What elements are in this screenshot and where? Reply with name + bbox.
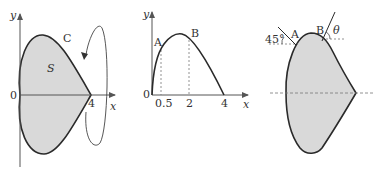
- rotation-arrowhead-icon: [81, 52, 88, 60]
- point-a-label: A: [290, 28, 300, 41]
- angle-45-label: 45°: [265, 33, 285, 46]
- angle-arc-b: [326, 32, 330, 39]
- origin-label: 0: [10, 89, 17, 102]
- curve-c-label: C: [63, 32, 71, 45]
- region-s-shape: [19, 35, 91, 154]
- x-axis-label: x: [243, 98, 250, 111]
- figure: y x 0 4 C S y x 0 0.5 2 4 A B 45° A B θ: [0, 0, 378, 170]
- angle-theta-label: θ: [333, 24, 340, 37]
- x-tick-4-label: 4: [88, 97, 95, 110]
- x-tick-2-label: 2: [186, 97, 193, 110]
- x-axis-label: x: [110, 100, 117, 113]
- x-tick-0.5-label: 0.5: [155, 97, 173, 110]
- rotation-arrow-icon: [86, 26, 107, 145]
- point-a-label: A: [153, 36, 163, 49]
- point-b-label: B: [316, 24, 324, 37]
- curve: [152, 34, 224, 95]
- panel-cross-section: 45° A B θ: [265, 12, 375, 153]
- origin-label: 0: [143, 88, 150, 101]
- point-b-label: B: [191, 27, 199, 40]
- panel-curve-graph: y x 0 0.5 2 4 A B: [142, 8, 250, 111]
- region-s-label: S: [47, 62, 55, 75]
- y-axis-label: y: [142, 8, 150, 21]
- panel-solid-of-revolution: y x 0 4 C S: [9, 9, 117, 167]
- y-axis-label: y: [9, 9, 17, 22]
- x-tick-4-label: 4: [221, 97, 228, 110]
